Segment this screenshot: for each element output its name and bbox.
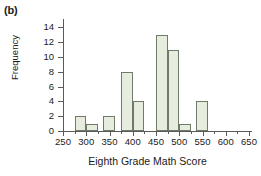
x-tick-minor	[144, 131, 145, 134]
y-axis-title: Frequency	[9, 20, 20, 96]
histogram-figure: (b) 02468101214 250300350400450500550600…	[0, 0, 261, 176]
y-tick	[58, 87, 63, 88]
y-tick	[58, 72, 63, 73]
y-tick	[58, 116, 63, 117]
histogram-bar	[196, 101, 208, 131]
histogram-bar	[75, 116, 87, 131]
x-tick-minor	[121, 131, 122, 134]
histogram-bar	[133, 101, 145, 131]
histogram-bar	[86, 124, 98, 131]
x-tick-minor	[191, 131, 192, 134]
x-tick-minor	[214, 131, 215, 134]
plot-area: 02468101214 250300350400450500550600650 …	[0, 0, 261, 176]
y-axis-line	[63, 19, 64, 131]
x-tick-label: 650	[229, 137, 261, 147]
y-tick	[58, 42, 63, 43]
x-axis-title: Eighth Grade Math Score	[40, 155, 255, 167]
y-tick-label: 0	[12, 126, 54, 136]
histogram-bar	[179, 124, 191, 131]
y-tick	[58, 57, 63, 58]
histogram-bar	[168, 50, 180, 131]
y-tick-label: 4	[12, 96, 54, 106]
x-tick-minor	[237, 131, 238, 134]
y-tick	[58, 101, 63, 102]
x-tick-minor	[98, 131, 99, 134]
y-tick-label: 2	[12, 111, 54, 121]
y-tick	[58, 27, 63, 28]
histogram-bar	[103, 116, 115, 131]
x-tick-minor	[75, 131, 76, 134]
histogram-bar	[156, 35, 168, 131]
x-tick-minor	[168, 131, 169, 134]
histogram-bar	[121, 72, 133, 131]
